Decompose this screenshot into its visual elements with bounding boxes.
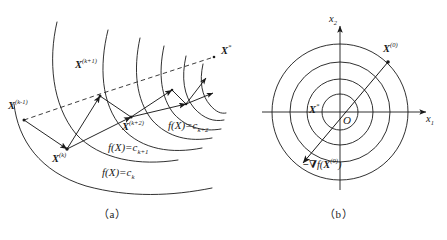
label-x-k: X(k) — [52, 152, 66, 164]
caption-panel-a: （a） — [98, 205, 126, 221]
label-negative-gradient: −∇f(X(0)) — [303, 158, 341, 170]
axis-label-x1: x1 — [426, 114, 434, 127]
caption-panel-b: （b） — [324, 205, 353, 221]
label-origin: O — [343, 115, 351, 126]
axis-label-x2: x2 — [329, 14, 337, 27]
contour-label-ck1: f(X)=ck+1 — [108, 142, 148, 156]
figure-svg — [0, 0, 447, 240]
label-x-star-b: X* — [309, 103, 319, 115]
contour-label-ck2: f(X)=ck+2 — [168, 120, 208, 134]
label-x-star-a: X* — [221, 44, 231, 56]
panel-a-point-dots — [23, 56, 216, 151]
label-x-k-plus-2: X(k+2) — [122, 120, 144, 132]
label-x-k-plus-1: X(k+1) — [75, 58, 97, 70]
panel-b-axes — [262, 26, 426, 190]
figure-root: X(k-1) X(k) X(k+1) X(k+2) X* f(X)=ck+2 f… — [0, 0, 447, 240]
label-x-k-minus-1: X(k-1) — [8, 99, 28, 111]
label-x-zero: X(0) — [383, 42, 398, 54]
panel-b-point-dots — [386, 60, 390, 64]
contour-label-ck: f(X)=ck — [102, 167, 134, 181]
